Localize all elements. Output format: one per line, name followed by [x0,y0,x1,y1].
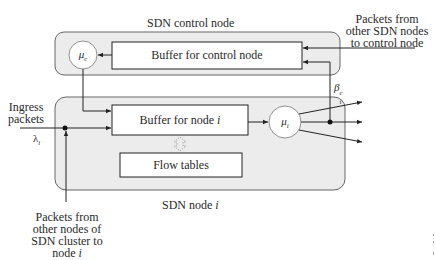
ingress-label: Ingress packets [0,101,52,125]
node-buffer-label-text: Buffer for node [140,113,217,127]
control-server-label: μc [69,48,97,66]
external-to-control-label: Packets from other SDN nodes to control … [332,13,435,49]
external-to-control-line3: to control node [332,37,435,49]
external-to-node-line4-text: node [52,246,78,260]
control-node-title: SDN control node [147,17,234,30]
node-server-subscript: i [287,122,289,130]
control-buffer-label: Buffer for control node [112,49,302,62]
feedback-prob-subscript: i [339,96,341,109]
sdn-node-title: SDN node i [162,199,219,212]
external-to-node-line4: node i [26,247,108,259]
feedback-probability-label: βci [334,81,344,94]
sdn-node-title-var: i [215,198,218,212]
node-buffer-label: Buffer for node i [112,114,248,127]
external-to-node-label: Packets from other nodes of SDN cluster … [26,211,108,259]
ingress-rate-subscript: i [38,139,40,147]
control-server-subscript: c [84,55,87,63]
node-server-label: μi [271,115,299,133]
flow-tables-label: Flow tables [120,159,242,172]
external-to-node-line4-var: i [78,246,81,260]
ingress-label-line2: packets [0,113,52,125]
edge-marks [433,234,434,255]
sdn-node-title-text: SDN node [162,198,215,212]
output-junction-dot [328,120,333,125]
ingress-rate-label: λi [33,132,40,150]
node-buffer-label-var: i [217,113,220,127]
ingress-junction-dot [63,126,68,131]
